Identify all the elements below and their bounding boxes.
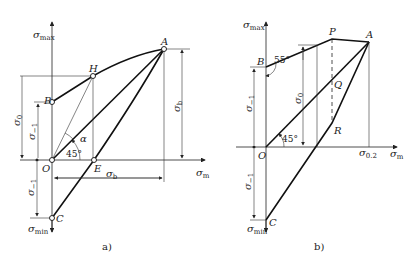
point-A: A: [365, 29, 373, 40]
caption-a: a): [102, 241, 112, 252]
dim-sigma-minus1: σ−1: [26, 123, 39, 140]
angle-55: 55°: [274, 55, 290, 65]
lower-limit-curve: [52, 49, 164, 218]
point-O: O: [258, 150, 266, 161]
fatigue-diagrams: σmax σm σmin A H B O E C σ0 σ−1 σ−1 σb σ…: [0, 0, 415, 268]
dim-sigma-minus1-lower: σ−1: [25, 179, 38, 196]
point-O: O: [42, 163, 50, 174]
point-A: A: [160, 36, 168, 47]
axis-label-sigma-min: σmin: [28, 223, 49, 236]
angle-alpha: α: [80, 133, 87, 144]
dim-sigma-minus1-lower: σ−1: [242, 173, 255, 190]
angle-45: 45°: [282, 134, 298, 144]
upper-limit-curve: [52, 49, 164, 102]
point-B: B: [256, 56, 264, 67]
point-B: B: [43, 95, 51, 106]
point-C: C: [269, 217, 277, 228]
axis-label-sigma-min: σmin: [247, 223, 268, 236]
point-C: C: [56, 213, 64, 224]
axis-label-sigma-m: σm: [196, 167, 210, 180]
point-R: R: [333, 125, 342, 136]
axis-label-sigma-max: σmax: [243, 19, 265, 32]
point-H: H: [88, 63, 98, 74]
angle-45: 45°: [66, 149, 82, 159]
point-Q: Q: [334, 79, 342, 90]
axis-label-sigma-m: σm: [390, 148, 404, 161]
figure-b: σmax σm σmin σ0.2 A P B Q R O C σ0 σ−1 σ…: [236, 19, 404, 252]
point-E: E: [93, 163, 102, 174]
figure-a: σmax σm σmin A H B O E C σ0 σ−1 σ−1 σb σ…: [11, 22, 210, 252]
axis-label-sigma-max: σmax: [33, 29, 55, 42]
caption-b: b): [314, 241, 324, 252]
label-sigma-0.2: σ0.2: [359, 147, 377, 160]
point-P: P: [328, 26, 336, 37]
dim-sigma-b-horizontal: σb: [106, 168, 118, 181]
